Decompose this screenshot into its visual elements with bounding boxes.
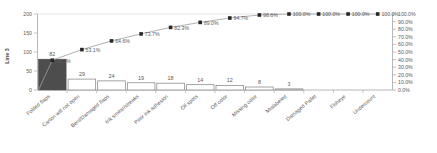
y-tick-0: 0 xyxy=(29,87,32,93)
bar-6[interactable] xyxy=(216,85,244,90)
pct-label-5: 89.0% xyxy=(204,20,219,26)
pareto-chart: Line 3 0 50 100 150 200 0.0% 10.0% 20.0%… xyxy=(0,0,437,153)
category-label-11: Undercount xyxy=(352,93,377,116)
bar-label-6: 12 xyxy=(227,77,233,83)
line-marker-4[interactable] xyxy=(169,26,173,30)
y2-tick-40: 40.0% xyxy=(398,57,413,63)
y2-tick-20: 20.0% xyxy=(398,72,413,78)
line-marker-10[interactable] xyxy=(346,12,350,16)
chart-canvas: Line 3 0 50 100 150 200 0.0% 10.0% 20.0%… xyxy=(0,0,437,153)
line-marker-2[interactable] xyxy=(110,39,114,43)
bar-5[interactable] xyxy=(186,85,214,90)
bar-7[interactable] xyxy=(246,87,274,90)
category-label-6: Off color xyxy=(209,93,228,111)
y2-tick-70: 70.0% xyxy=(398,34,413,40)
pct-label-6: 94.7% xyxy=(234,15,249,21)
y2-tick-90: 90.0% xyxy=(398,19,413,25)
category-label-9: Damaged Pallet xyxy=(285,93,318,122)
line-marker-11[interactable] xyxy=(376,12,380,16)
y2-tick-80: 80.0% xyxy=(398,26,413,32)
y-tick-50: 50 xyxy=(26,68,32,74)
y2-tick-10: 10.0% xyxy=(398,79,413,85)
y-tick-200: 200 xyxy=(23,11,32,17)
pct-label-4: 82.3% xyxy=(174,25,189,31)
pct-label-0: 39.2% xyxy=(56,58,71,64)
bar-label-4: 18 xyxy=(168,75,174,81)
line-marker-5[interactable] xyxy=(198,21,202,25)
pct-label-1: 53.1% xyxy=(86,47,101,53)
bar-label-0: 82 xyxy=(49,51,55,57)
bar-label-8: 3 xyxy=(288,81,291,87)
y2-tick-100: 100.0% xyxy=(398,11,416,17)
line-marker-1[interactable] xyxy=(80,48,84,52)
cumulative-pct-labels: 39.2% 53.1% 64.6% 73.7% 82.3% 89.0% 94.7… xyxy=(56,11,399,63)
bar-1[interactable] xyxy=(68,79,96,90)
pct-label-9: 100.0% xyxy=(322,11,340,17)
bar-label-5: 14 xyxy=(197,77,203,83)
category-label-7: Missing color xyxy=(230,93,258,118)
line-marker-3[interactable] xyxy=(139,32,143,36)
bar-4[interactable] xyxy=(157,83,185,90)
category-tick-marks xyxy=(67,90,363,93)
pct-label-7: 98.6% xyxy=(263,12,278,18)
pct-label-8: 100.0% xyxy=(293,11,311,17)
bar-label-2: 24 xyxy=(109,73,115,79)
line-marker-8[interactable] xyxy=(287,12,291,16)
category-label-10: Fisheye xyxy=(329,93,347,110)
y2-tick-50: 50.0% xyxy=(398,49,413,55)
category-labels: Folded flaps Carton will not open Bent/D… xyxy=(25,93,377,129)
y-axis-title: Line 3 xyxy=(4,48,10,64)
bar-8[interactable] xyxy=(275,89,303,90)
left-axis-ticks: 0 50 100 150 200 xyxy=(23,11,37,93)
bar-label-1: 29 xyxy=(79,71,85,77)
right-axis-ticks: 0.0% 10.0% 20.0% 30.0% 40.0% 50.0% 60.0%… xyxy=(393,11,416,93)
category-label-8: Mislabeled xyxy=(264,93,287,114)
bar-2[interactable] xyxy=(98,81,126,90)
y2-tick-0: 0.0% xyxy=(398,87,410,93)
bar-3[interactable] xyxy=(127,83,155,90)
y-tick-100: 100 xyxy=(23,49,32,55)
pct-label-3: 73.7% xyxy=(145,31,160,37)
bar-label-3: 19 xyxy=(138,75,144,81)
pct-label-2: 64.6% xyxy=(115,38,130,44)
y2-tick-60: 60.0% xyxy=(398,41,413,47)
bar-0[interactable] xyxy=(39,59,67,90)
y-tick-150: 150 xyxy=(23,30,32,36)
bar-label-7: 8 xyxy=(258,79,261,85)
pct-label-10: 100.0% xyxy=(352,11,370,17)
line-marker-7[interactable] xyxy=(258,13,262,17)
category-label-0: Folded flaps xyxy=(25,93,51,116)
pct-label-11: 100.0% xyxy=(381,11,399,17)
category-label-5: Oil spots xyxy=(179,93,199,111)
y2-tick-30: 30.0% xyxy=(398,64,413,70)
line-marker-0[interactable] xyxy=(51,58,55,62)
line-marker-6[interactable] xyxy=(228,16,232,20)
line-marker-9[interactable] xyxy=(317,12,321,16)
